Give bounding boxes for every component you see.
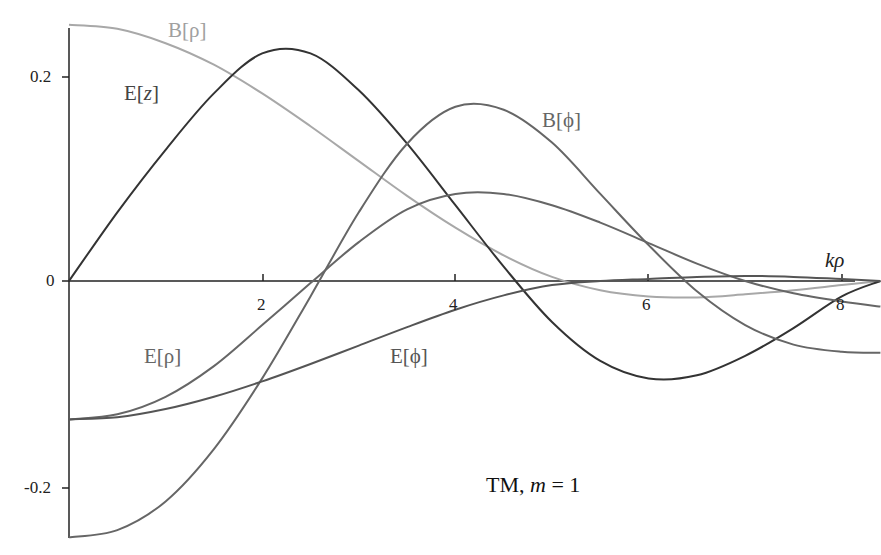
label-e-z-var: z [144,81,152,105]
label-e-z: E[z] [124,83,159,104]
label-b-rho: B[ρ] [168,20,206,41]
label-e-z-prefix: E[ [124,81,144,105]
x-tick-label-2: 2 [257,296,266,313]
curve-e-3 [69,192,880,419]
axes [62,28,855,538]
annotation-suffix: = 1 [546,472,580,497]
y-tick-label-neg0.2: -0.2 [24,479,51,496]
y-tick-label-0: 0 [46,272,55,289]
x-axis-label: kρ [825,250,844,271]
annotation-var: m [530,472,546,497]
mode-annotation: TM, m = 1 [486,474,580,496]
x-tick-label-4: 4 [449,296,458,313]
y-tick-label-0.2: 0.2 [30,68,51,85]
curve-ez-1 [69,49,880,380]
x-tick-label-6: 6 [642,296,651,313]
curve-b-2 [69,104,880,538]
curve-b-0 [69,25,880,298]
label-e-rho: E[ρ] [144,346,181,367]
label-e-phi: E[ϕ] [390,346,428,367]
x-tick-label-8: 8 [836,296,845,313]
annotation-prefix: TM, [486,472,530,497]
label-b-phi: B[ϕ] [542,110,581,131]
